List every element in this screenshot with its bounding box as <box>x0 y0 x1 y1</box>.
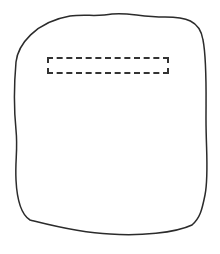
dashed-input-placeholder[interactable] <box>47 57 169 74</box>
blob-outline <box>15 14 208 235</box>
sketch-canvas <box>0 0 220 254</box>
